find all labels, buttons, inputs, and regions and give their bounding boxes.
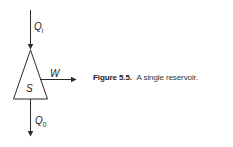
outflow-label: Q0: [35, 115, 47, 128]
figure-caption-text: A single reservoir.: [137, 73, 198, 82]
inflow-label: Qi: [34, 21, 43, 34]
figure-caption: Figure 5.5. A single reservoir.: [93, 73, 198, 82]
withdrawal-label: W: [50, 68, 61, 79]
figure-number: Figure 5.5.: [93, 73, 132, 82]
storage-label: S: [26, 83, 33, 94]
